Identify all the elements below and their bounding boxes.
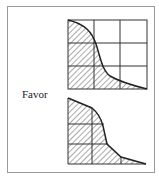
top-panel	[68, 20, 147, 89]
curve-diagrams	[0, 0, 159, 179]
bottom-panel	[68, 98, 146, 164]
